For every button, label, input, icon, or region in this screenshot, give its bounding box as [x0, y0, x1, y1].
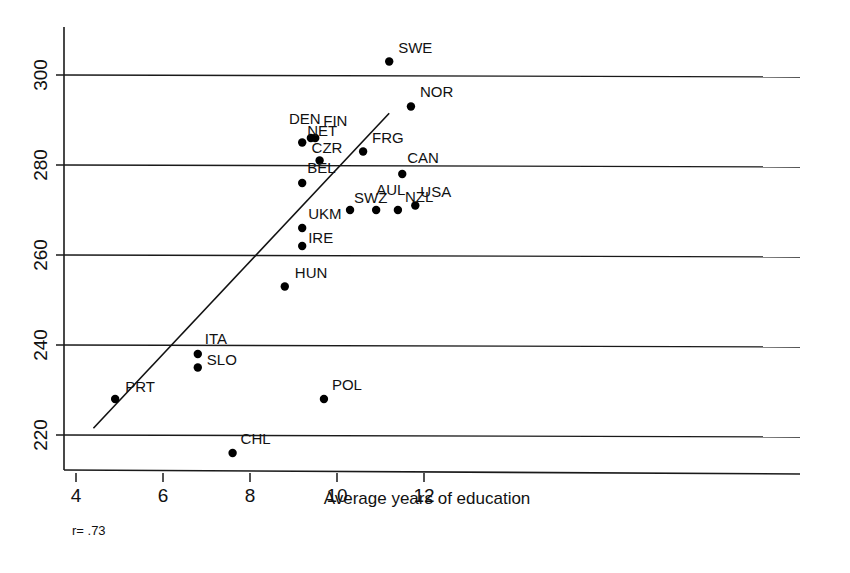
point-label-aul: AUL — [376, 181, 405, 198]
data-point-nzl — [394, 206, 402, 214]
data-point-aul — [372, 206, 380, 214]
x-tick-label-6: 6 — [158, 485, 169, 506]
data-point-ita — [194, 350, 202, 358]
y-tick-label-240: 240 — [30, 329, 51, 361]
point-label-ire: IRE — [308, 229, 333, 246]
data-point-nor — [407, 102, 415, 110]
point-label-prt: PRT — [125, 378, 155, 395]
point-label-bel: BEL — [307, 159, 335, 176]
y-tick-label-260: 260 — [30, 239, 51, 271]
data-point-chl — [228, 449, 236, 457]
x-axis-line — [64, 470, 800, 474]
data-point-hun — [281, 282, 289, 290]
y-tick-label-220: 220 — [30, 419, 51, 451]
point-label-ita: ITA — [205, 330, 227, 347]
x-tick-label-8: 8 — [245, 485, 256, 506]
point-label-pol: POL — [332, 376, 362, 393]
point-label-can: CAN — [407, 149, 439, 166]
point-label-fin: FIN — [323, 112, 347, 129]
correlation-annotation: r= .73 — [72, 523, 106, 538]
data-point-slo — [194, 363, 202, 371]
point-label-den: DEN — [289, 110, 321, 127]
data-point-can — [398, 170, 406, 178]
point-label-frg: FRG — [372, 129, 404, 146]
y-tick-label-280: 280 — [30, 149, 51, 181]
x-axis-title: Average years of education — [324, 489, 531, 508]
data-point-swz — [346, 206, 354, 214]
point-labels: PRTCHLITASLOHUNIREUKMBELNETCZRDENFINFRGP… — [125, 39, 453, 448]
y-tick-label-300: 300 — [30, 59, 51, 91]
data-point-ukm — [298, 224, 306, 232]
data-point-bel — [298, 179, 306, 187]
point-label-ukm: UKM — [308, 205, 341, 222]
point-label-czr: CZR — [312, 139, 343, 156]
point-label-usa: USA — [420, 183, 451, 200]
point-label-nor: NOR — [420, 83, 454, 100]
y-tick-labels: 220240260280300 — [30, 59, 51, 451]
grid-line-y-300 — [64, 75, 800, 77]
grid-line-y-260 — [64, 255, 800, 257]
data-point-ire — [298, 242, 306, 250]
data-points — [111, 57, 420, 457]
data-point-net — [298, 138, 306, 146]
grid-line-y-220 — [64, 435, 800, 437]
point-label-hun: HUN — [295, 264, 328, 281]
chart-container: PRTCHLITASLOHUNIREUKMBELNETCZRDENFINFRGP… — [0, 0, 850, 573]
point-label-slo: SLO — [207, 351, 237, 368]
grid-lines — [64, 75, 800, 437]
data-point-prt — [111, 395, 119, 403]
scatter-plot: PRTCHLITASLOHUNIREUKMBELNETCZRDENFINFRGP… — [0, 0, 850, 573]
point-label-chl: CHL — [241, 430, 271, 447]
data-point-pol — [320, 395, 328, 403]
data-point-swe — [385, 57, 393, 65]
x-tick-label-4: 4 — [71, 485, 82, 506]
grid-line-y-240 — [64, 345, 800, 347]
point-label-swe: SWE — [398, 39, 432, 56]
data-point-frg — [359, 147, 367, 155]
